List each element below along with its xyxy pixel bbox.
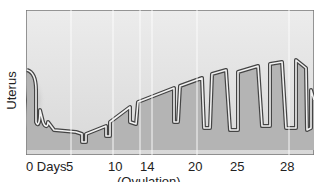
- tick-day-0: 0 Days: [26, 159, 66, 174]
- endometrium-plot: [26, 10, 314, 155]
- tick-day-14: 14: [140, 159, 154, 174]
- y-axis-label: Uterus: [1, 60, 21, 120]
- tick-day-10: 10: [108, 159, 122, 174]
- tick-day-20: 20: [188, 159, 202, 174]
- tick-day-25: 25: [230, 159, 244, 174]
- tick-day-28: 28: [280, 159, 294, 174]
- tick-day-5: 5: [66, 159, 73, 174]
- ovulation-annotation: (Ovulation): [117, 174, 181, 182]
